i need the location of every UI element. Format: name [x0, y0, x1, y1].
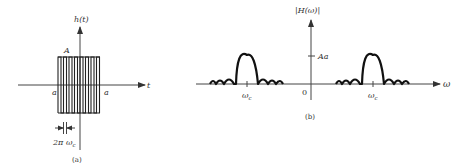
left-center-label: ωc: [242, 91, 252, 101]
left-bound-label: a: [52, 88, 57, 97]
caption-a: (a): [72, 156, 82, 164]
panel-b-spectrum: Aa |H(ω)| ω 0 ωc ωc (b): [196, 6, 451, 121]
right-center-label: ωc: [368, 91, 378, 101]
t-axis-label: t: [147, 81, 151, 90]
amplitude-label: A: [63, 46, 70, 55]
caption-b: (b): [305, 113, 315, 121]
figure: h(t) t A a a 2π ωc (a) Aa |H(ω)| ω 0 ωc …: [0, 0, 459, 165]
period-marker: [55, 122, 75, 134]
panel-a-time-signal: h(t) t A a a 2π ωc (a): [18, 15, 151, 164]
right-bound-label: a: [104, 88, 109, 97]
period-label: 2π ωc: [52, 138, 76, 148]
h-axis-label: h(t): [74, 15, 89, 24]
left-spectrum: [210, 54, 283, 84]
omega-axis-label: ω: [443, 79, 451, 89]
H-axis-label: |H(ω)|: [295, 6, 320, 15]
right-spectrum: [336, 54, 409, 84]
origin-label: 0: [302, 88, 307, 97]
peak-label: Aa: [317, 52, 329, 61]
